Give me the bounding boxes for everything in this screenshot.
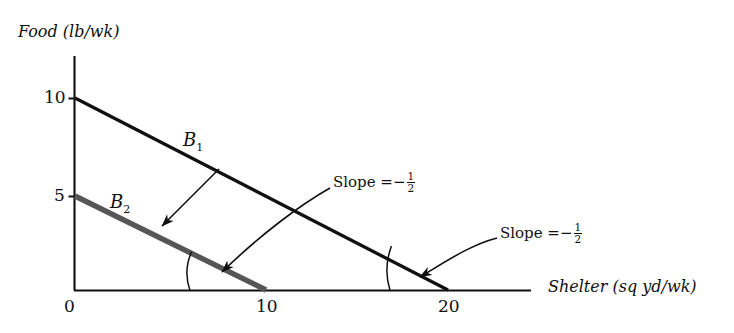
x-tick-label-10: 10	[256, 298, 278, 315]
angle-arc-b1	[387, 246, 392, 291]
axis-lines	[74, 56, 531, 291]
slope-leader-b1	[420, 238, 497, 277]
curve-label-b1-base: B	[183, 129, 196, 150]
slope-annotation-b2-text: Slope =	[333, 173, 393, 191]
shift-arrow	[162, 169, 219, 226]
slope-annotation-b1-minus: −	[560, 224, 573, 242]
slope-annotation-b2: Slope =−12	[333, 171, 415, 194]
curve-label-b2-sub: 2	[123, 203, 130, 216]
budget-line-figure: Food (lb/wk) Shelter (sq yd/wk) 10 5 0 1…	[0, 0, 734, 333]
slope-annotation-b1-text: Slope =	[500, 224, 560, 242]
y-axis-title: Food (lb/wk)	[18, 24, 119, 40]
slope-annotation-b2-minus: −	[393, 173, 406, 191]
y-tick-label-5: 5	[54, 187, 65, 204]
x-tick-label-20: 20	[438, 298, 460, 315]
y-tick-label-10: 10	[44, 89, 66, 106]
curve-label-b2: B2	[110, 193, 130, 215]
slope-annotation-b2-fraction: 12	[407, 171, 416, 194]
slope-annotation-b1: Slope =−12	[500, 222, 582, 245]
budget-line-b2	[75, 196, 266, 290]
origin-tick-label: 0	[64, 298, 75, 315]
curve-label-b1: B1	[183, 131, 203, 153]
slope-annotation-b1-fraction: 12	[574, 222, 583, 245]
curve-label-b1-sub: 1	[196, 141, 203, 154]
slope-annotation-b1-denominator: 2	[574, 234, 583, 245]
angle-arc-b2	[187, 252, 191, 291]
slope-annotation-b2-denominator: 2	[407, 183, 416, 194]
curve-label-b2-base: B	[110, 191, 123, 212]
x-axis-title: Shelter (sq yd/wk)	[548, 279, 697, 295]
